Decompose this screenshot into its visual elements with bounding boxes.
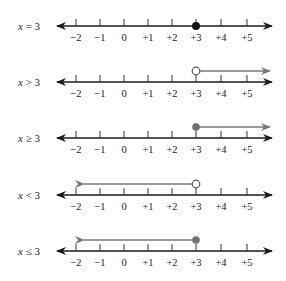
tick-label: −2	[70, 88, 81, 99]
tick-label: +3	[190, 144, 201, 155]
tick-label: +2	[166, 88, 177, 99]
tick-label: +2	[166, 32, 177, 43]
filled-point	[192, 236, 200, 244]
tick-label: +4	[215, 257, 227, 268]
tick-label: +4	[215, 32, 227, 43]
tick-label: +4	[215, 201, 227, 212]
row-label: x < 3	[17, 189, 41, 201]
tick-label: +1	[142, 144, 153, 155]
tick-label: +2	[166, 257, 177, 268]
row-label: x = 3	[17, 20, 41, 32]
tick-label: +5	[241, 144, 252, 155]
number-line-axis: −2−10+1+2+3+4+5	[57, 131, 272, 155]
tick-label: +2	[166, 144, 177, 155]
tick-label: 0	[121, 144, 126, 155]
row-label: x > 3	[17, 76, 41, 88]
tick-label: +5	[241, 32, 252, 43]
tick-label: +3	[190, 88, 201, 99]
row-less-equal: x ≤ 3 −2−10+1+2+3+4+5	[17, 236, 272, 268]
tick-label: +1	[142, 88, 153, 99]
row-label: x ≤ 3	[17, 245, 40, 257]
row-label: x ≥ 3	[17, 132, 40, 144]
tick-label: +3	[190, 32, 201, 43]
open-point	[192, 180, 200, 188]
tick-label: +4	[215, 144, 227, 155]
tick-label: −1	[94, 144, 105, 155]
tick-label: +4	[215, 88, 227, 99]
tick-label: 0	[121, 257, 126, 268]
tick-label: 0	[121, 32, 126, 43]
tick-label: +1	[142, 257, 153, 268]
tick-label: −2	[70, 257, 81, 268]
tick-label: 0	[121, 88, 126, 99]
tick-label: +1	[142, 201, 153, 212]
tick-label: −1	[94, 88, 105, 99]
tick-label: +5	[241, 201, 252, 212]
open-point	[192, 67, 200, 75]
filled-point	[192, 123, 200, 131]
row-equal: x = 3 −2−10+1+2+3+4+5	[17, 19, 272, 43]
tick-label: +1	[142, 32, 153, 43]
tick-label: +5	[241, 88, 252, 99]
number-line-axis: −2−10+1+2+3+4+5	[57, 75, 272, 99]
tick-label: −1	[94, 201, 105, 212]
number-line-diagram: x = 3 −2−10+1+2+3+4+5 x > 3 −2−10+1+2+3+…	[0, 0, 286, 281]
number-line-axis: −2−10+1+2+3+4+5	[57, 19, 272, 43]
number-line-axis: −2−10+1+2+3+4+5	[57, 244, 272, 268]
tick-label: +3	[190, 201, 201, 212]
tick-label: −2	[70, 201, 81, 212]
tick-label: −1	[94, 257, 105, 268]
number-line-axis: −2−10+1+2+3+4+5	[57, 188, 272, 212]
row-less-than: x < 3 −2−10+1+2+3+4+5	[17, 180, 272, 212]
row-greater-equal: x ≥ 3 −2−10+1+2+3+4+5	[17, 123, 272, 155]
tick-label: −2	[70, 32, 81, 43]
filled-point	[192, 22, 200, 30]
tick-label: −1	[94, 32, 105, 43]
tick-label: +5	[241, 257, 252, 268]
tick-label: −2	[70, 144, 81, 155]
tick-label: +3	[190, 257, 201, 268]
tick-label: +2	[166, 201, 177, 212]
tick-label: 0	[121, 201, 126, 212]
row-greater-than: x > 3 −2−10+1+2+3+4+5	[17, 67, 272, 99]
